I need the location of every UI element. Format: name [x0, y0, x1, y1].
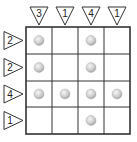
row-clue: 2 [4, 32, 23, 50]
column-clue-value: 3 [36, 8, 42, 19]
row-clue: 2 [4, 59, 23, 77]
ball-icon [86, 63, 96, 73]
column-clue: 1 [108, 7, 126, 25]
ball-icon [86, 89, 96, 99]
ball-icon [60, 89, 70, 99]
grid-cell[interactable] [104, 27, 130, 54]
ball-icon [86, 116, 96, 126]
column-clue-value: 1 [114, 8, 120, 19]
row-clue-value: 2 [7, 35, 13, 46]
row-clues: 2241 [4, 32, 23, 130]
column-clue: 1 [56, 7, 74, 25]
row-clue-value: 2 [7, 62, 13, 73]
column-clue-value: 1 [62, 8, 68, 19]
ball-icon [86, 36, 96, 46]
grid-cell[interactable] [26, 107, 52, 134]
grid-cell[interactable] [52, 27, 78, 54]
column-clues: 3141 [30, 7, 126, 25]
grid-cell[interactable] [52, 107, 78, 134]
column-clue: 3 [30, 7, 48, 25]
grid-cell[interactable] [104, 54, 130, 81]
row-clue-value: 1 [7, 115, 13, 126]
ball-icon [34, 89, 44, 99]
row-clue: 1 [4, 112, 23, 130]
ball-icon [34, 36, 44, 46]
puzzle-board: 3141 2241 [0, 0, 137, 142]
row-clue-value: 4 [7, 89, 13, 100]
column-clue-value: 4 [88, 8, 94, 19]
row-clue: 4 [4, 85, 23, 103]
column-clue: 4 [82, 7, 100, 25]
grid-cell[interactable] [52, 54, 78, 81]
ball-icon [112, 89, 122, 99]
ball-icon [34, 63, 44, 73]
grid-cell[interactable] [104, 107, 130, 134]
